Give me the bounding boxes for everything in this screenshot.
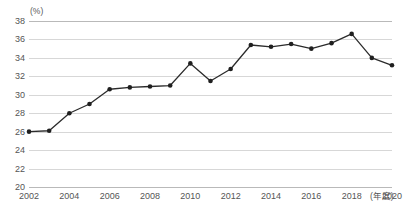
data-point — [148, 84, 153, 89]
data-point — [249, 43, 254, 48]
plot-area — [0, 0, 403, 210]
data-point — [349, 32, 354, 37]
data-point — [329, 41, 334, 46]
data-point — [188, 61, 193, 66]
data-point — [228, 67, 233, 72]
data-point — [390, 63, 395, 68]
data-point — [269, 45, 274, 50]
data-point — [128, 85, 133, 90]
data-point — [208, 79, 213, 84]
data-point — [168, 83, 173, 88]
data-point — [309, 46, 314, 51]
data-point — [370, 56, 375, 61]
data-point — [67, 111, 72, 116]
line-chart: (%) 38363432302826242220 200220042006200… — [0, 0, 403, 210]
data-point — [27, 129, 32, 134]
data-point — [47, 128, 52, 133]
data-point — [289, 42, 294, 47]
series-markers — [27, 32, 395, 134]
data-point — [107, 87, 112, 92]
data-point — [87, 102, 92, 107]
